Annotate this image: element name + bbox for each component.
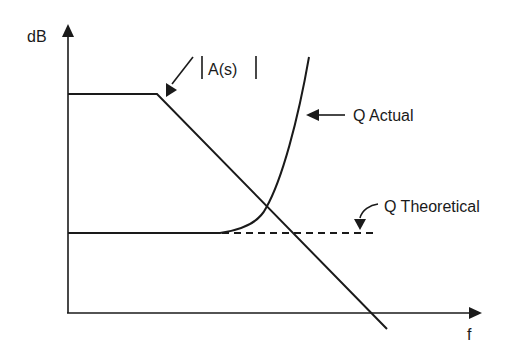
y-axis-label: dB (27, 28, 47, 45)
q-actual-curve (68, 57, 309, 233)
bode-diagram: dB f A(s) Q Actual Q Theoretical (0, 0, 531, 364)
gain-label: A(s) (166, 56, 256, 97)
x-axis-arrow-icon (469, 307, 482, 319)
q-theoretical-pointer (360, 204, 378, 218)
q-theoretical-label-text: Q Theoretical (384, 198, 480, 215)
x-axis-label: f (467, 326, 472, 343)
q-actual-label: Q Actual (306, 107, 413, 124)
axes: dB f (27, 24, 482, 343)
gain-label-pointer (172, 57, 193, 84)
q-actual-label-text: Q Actual (353, 107, 413, 124)
q-actual-arrow-icon (306, 109, 319, 121)
gain-curve (68, 94, 387, 329)
gain-label-text: A(s) (208, 61, 237, 78)
y-axis-arrow-icon (62, 24, 74, 37)
gain-pointer-arrow-icon (166, 83, 177, 97)
q-theoretical-arrow-icon (354, 219, 366, 230)
q-theoretical-label: Q Theoretical (354, 198, 480, 230)
